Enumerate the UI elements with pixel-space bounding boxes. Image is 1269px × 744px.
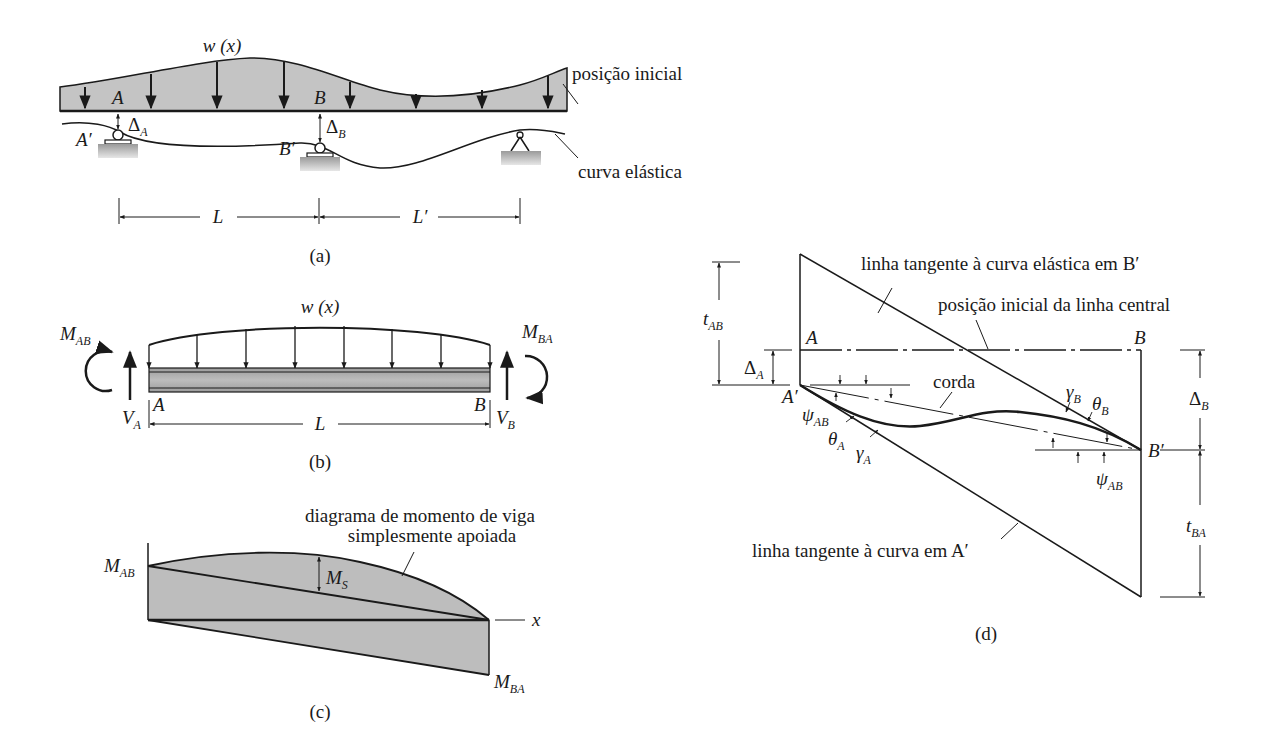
moment-AB-arrow <box>86 351 112 391</box>
delta-A-label-d: ΔA <box>744 357 764 382</box>
theta-A-label: θA <box>828 428 845 453</box>
point-B-prime-label: B′ <box>279 138 296 159</box>
load-label: w (x) <box>203 35 242 57</box>
moment-BA-label: MBA <box>521 321 553 346</box>
beam-member <box>149 368 490 392</box>
moment-AB-label-c: MAB <box>103 555 135 580</box>
panel-b: w (x) MAB VA MBA VB A B <box>59 296 553 473</box>
span-L-label-b: L <box>314 413 326 434</box>
psi-AB-left-label: ψAB <box>802 404 829 429</box>
point-A-prime-label: A′ <box>74 129 93 150</box>
t-AB-label: tAB <box>703 308 724 333</box>
moment-BA-arrow <box>525 356 547 398</box>
point-A-label-b: A <box>151 394 165 415</box>
moment-AB-label: MAB <box>59 323 91 348</box>
distributed-load-outline <box>149 328 490 345</box>
diagram-note-line1: diagrama de momento de viga <box>305 505 536 526</box>
load-arrows-b <box>149 326 490 368</box>
leader-moment-diagram <box>402 552 414 576</box>
initial-position-label: posição inicial <box>572 63 682 84</box>
point-A-prime-label-d: A′ <box>780 386 799 407</box>
tangent-line-at-B-prime <box>800 254 1141 450</box>
leader-elastic-curve <box>555 134 578 158</box>
caption-d: (d) <box>975 623 997 645</box>
caption-b: (b) <box>309 451 331 473</box>
panel-c: x MS MAB MBA diagrama de momento de viga… <box>103 505 541 723</box>
point-A-label: A <box>110 87 124 108</box>
diagram-note-line2: simplesmente apoiada <box>348 525 517 546</box>
t-BA-label: tBA <box>1186 515 1207 540</box>
beam-analysis-figure: w (x) posição inicial curva elástica ΔA … <box>0 0 1269 744</box>
pin-support <box>501 132 541 165</box>
panel-a: w (x) posição inicial curva elástica ΔA … <box>60 35 682 267</box>
leader-initial-centerline <box>976 320 988 349</box>
gamma-B-label: γB <box>1066 381 1082 406</box>
point-B-label: B <box>314 87 326 108</box>
tangent-B-label: linha tangente à curva elástica em B′ <box>861 253 1139 274</box>
initial-centerline-label: posição inicial da linha central <box>938 294 1170 315</box>
gamma-A-label: γA <box>856 442 872 467</box>
leader-chord <box>940 392 952 408</box>
span-L-label: L <box>212 206 224 227</box>
shear-B-label: VB <box>496 407 516 432</box>
point-B-label-d: B <box>1134 327 1146 348</box>
chord-label: corda <box>933 371 976 392</box>
roller-support-B-prime <box>300 143 340 171</box>
x-axis-label: x <box>531 609 541 630</box>
leader-tangent-A <box>1001 523 1018 539</box>
theta-B-label: θB <box>1092 393 1109 418</box>
point-A-label-d: A <box>804 327 818 348</box>
load-label-b: w (x) <box>301 296 340 318</box>
span-dimension-lines <box>119 198 520 224</box>
point-B-label-b: B <box>474 394 486 415</box>
caption-a: (a) <box>309 245 330 267</box>
tangent-A-label: linha tangente à curva em A′ <box>752 540 969 561</box>
delta-B-label-d: ΔB <box>1189 388 1209 413</box>
delta-B-label: ΔB <box>326 116 346 141</box>
delta-A-label: ΔA <box>128 114 148 139</box>
psi-AB-right-label: ψAB <box>1096 468 1123 493</box>
panel-d: tAB ΔA ΔB tBA A B A′ B′ ψAB θA γA γB θB … <box>703 253 1209 645</box>
elastic-curve-label: curva elástica <box>578 161 682 182</box>
delta-A-dimension-d <box>764 350 792 384</box>
span-L-prime-label: L′ <box>412 206 429 227</box>
point-B-prime-label-d: B′ <box>1148 440 1165 461</box>
shear-A-label: VA <box>122 407 142 432</box>
caption-c: (c) <box>309 701 330 723</box>
moment-BA-label-c: MBA <box>493 671 525 696</box>
